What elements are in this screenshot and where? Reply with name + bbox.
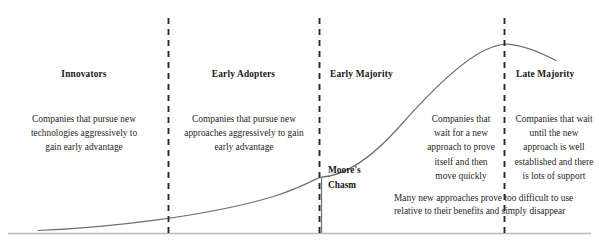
segment-body-innovators: Companies that pursue new technologies a… xyxy=(24,112,144,155)
segment-body-late-majority: Companies that wait until the new approa… xyxy=(512,112,596,183)
segment-heading-early-adopters: Early Adopters xyxy=(168,70,319,79)
chasm-note: Many new approaches prove too difficult … xyxy=(394,192,598,219)
adoption-lifecycle-diagram: Innovators Companies that pursue new tec… xyxy=(0,0,599,249)
segment-heading-early-majority: Early Majority xyxy=(330,70,450,79)
segment-heading-late-majority: Late Majority xyxy=(516,70,599,79)
segment-body-early-majority: Companies that wait for a new approach t… xyxy=(423,112,499,183)
moores-chasm-label: Moore's Chasm xyxy=(328,163,390,192)
adoption-curve-early xyxy=(38,177,320,230)
segment-body-early-adopters: Companies that pursue new approaches agg… xyxy=(184,112,304,155)
segment-heading-innovators: Innovators xyxy=(0,70,168,79)
